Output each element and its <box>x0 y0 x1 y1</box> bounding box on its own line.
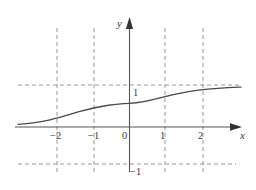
y-tick-label-pos1: 1 <box>133 88 138 99</box>
x-tick-label-neg1: −1 <box>88 131 99 142</box>
x-axis-label: x <box>240 130 245 141</box>
y-tick-label-neg1: −1 <box>130 167 141 178</box>
y-axis-arrowhead <box>126 17 133 29</box>
x-tick-label-pos1: 1 <box>160 131 165 142</box>
graph-figure: y x −2 −1 0 1 2 1 −1 <box>0 0 256 190</box>
x-tick-label-pos2: 2 <box>198 131 203 142</box>
y-axis-label: y <box>117 18 122 29</box>
plot-canvas <box>0 0 256 190</box>
x-tick-label-neg2: −2 <box>50 131 61 142</box>
x-tick-label-zero: 0 <box>122 131 127 142</box>
